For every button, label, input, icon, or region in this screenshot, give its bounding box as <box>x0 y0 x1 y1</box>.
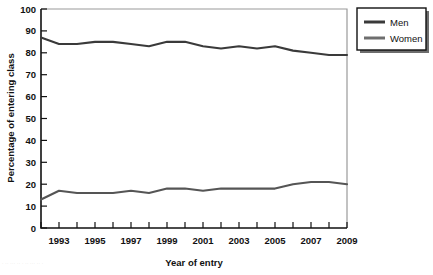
x-tick-label: 1997 <box>120 235 141 246</box>
y-tick-label: 20 <box>25 179 36 190</box>
x-tick-label: 2009 <box>336 235 357 246</box>
footer-artifact-text: · ·· ··· ·· · ·· ··· ·· · <box>2 261 44 266</box>
x-tick-label: 2003 <box>228 235 249 246</box>
x-tick-label: 2001 <box>192 235 214 246</box>
y-axis-tick-labels: 0102030405060708090100 <box>20 4 36 234</box>
y-tick-label: 70 <box>25 69 36 80</box>
chart-figure: 0102030405060708090100 19931995199719992… <box>0 0 433 275</box>
y-tick-label: 40 <box>25 135 36 146</box>
y-tick-label: 30 <box>25 157 36 168</box>
legend-box <box>357 8 426 50</box>
y-tick-label: 80 <box>25 47 36 58</box>
x-tick-label: 1999 <box>156 235 177 246</box>
y-tick-label: 90 <box>25 25 36 36</box>
legend-label-men: Men <box>390 17 408 28</box>
x-tick-label: 2005 <box>264 235 286 246</box>
y-tick-label: 100 <box>20 4 36 15</box>
y-tick-label: 10 <box>25 201 36 212</box>
y-tick-label: 0 <box>31 223 36 234</box>
legend-label-women: Women <box>390 33 423 44</box>
x-axis-title: Year of entry <box>165 257 223 268</box>
x-axis-tick-labels: 199319951997199920012003200520072009 <box>48 235 357 246</box>
x-tick-label: 1995 <box>84 235 106 246</box>
x-tick-label: 1993 <box>48 235 69 246</box>
y-axis-title: Percentage of entering class <box>5 53 16 182</box>
x-tick-label: 2007 <box>300 235 321 246</box>
y-tick-label: 60 <box>25 91 36 102</box>
line-chart: 0102030405060708090100 19931995199719992… <box>0 0 433 275</box>
y-tick-label: 50 <box>25 113 36 124</box>
